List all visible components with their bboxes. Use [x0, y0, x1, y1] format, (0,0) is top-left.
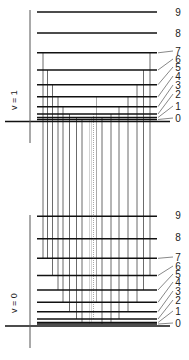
level-label-J0: 0 [175, 113, 181, 124]
label-leader-line [158, 282, 173, 302]
level-label-J2: 2 [175, 89, 181, 100]
level-label-J1: 1 [175, 306, 181, 317]
level-label-J8: 8 [175, 28, 181, 39]
label-leader-line [158, 118, 173, 120]
label-leader-line [158, 274, 173, 290]
level-label-J8: 8 [175, 232, 181, 243]
label-leader-line [158, 59, 173, 70]
vibrational-state-label: v = 0 [9, 293, 19, 313]
level-label-J0: 0 [175, 318, 181, 329]
label-leader-line [158, 323, 173, 324]
label-leader-line [158, 266, 173, 276]
level-label-J2: 2 [175, 295, 181, 306]
label-leader-line [158, 300, 173, 319]
label-leader-line [158, 106, 173, 118]
vibrational-state-labels: v = 1v = 0 [9, 90, 19, 313]
rovibrational-energy-level-diagram: 98765432109876543210 v = 1v = 0 [0, 0, 189, 360]
level-labels: 98765432109876543210 [158, 7, 181, 329]
level-label-J1: 1 [175, 101, 181, 112]
label-leader-line [158, 257, 173, 258]
label-leader-line [158, 311, 173, 323]
label-leader-line [158, 67, 173, 85]
level-label-J9: 9 [175, 210, 181, 221]
level-label-J9: 9 [175, 7, 181, 18]
label-leader-line [158, 76, 173, 97]
vibrational-state-label: v = 1 [9, 90, 19, 110]
label-leader-line [158, 51, 173, 53]
label-leader-line [158, 291, 173, 312]
transition-lines [43, 53, 150, 324]
